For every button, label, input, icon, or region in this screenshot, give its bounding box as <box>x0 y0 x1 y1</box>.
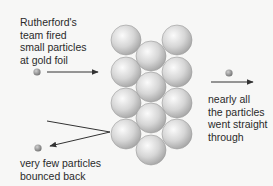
gold-atom <box>162 119 192 149</box>
gold-foil-atoms <box>111 25 192 165</box>
gold-atom <box>111 119 141 149</box>
label-line: at gold foil <box>20 54 87 67</box>
transmitted-particle <box>225 69 232 76</box>
gold-atom <box>162 25 192 55</box>
gold-atom <box>111 25 141 55</box>
incoming-particle <box>33 68 40 75</box>
label-particles-fired: Rutherford's team fired small particles … <box>20 16 87 66</box>
label-went-through: nearly all the particles went straight t… <box>208 93 268 143</box>
gold-atom <box>162 88 192 118</box>
label-line: small particles <box>20 41 87 54</box>
label-line: went straight <box>208 118 268 131</box>
label-line: team fired <box>20 29 87 42</box>
label-bounced-back: very few particles bounced back <box>20 157 101 182</box>
gold-atom <box>136 41 166 71</box>
bounce-back-arrow <box>47 121 110 146</box>
gold-atom <box>136 72 166 102</box>
label-line: the particles <box>208 106 268 119</box>
label-line: through <box>208 131 268 144</box>
gold-atom <box>136 103 166 133</box>
gold-atom <box>162 57 192 87</box>
label-line: very few particles <box>20 157 101 170</box>
label-line: bounced back <box>20 170 101 183</box>
label-line: nearly all <box>208 93 268 106</box>
bounced-particle <box>34 144 41 151</box>
label-line: Rutherford's <box>20 16 87 29</box>
gold-atom <box>136 135 166 165</box>
